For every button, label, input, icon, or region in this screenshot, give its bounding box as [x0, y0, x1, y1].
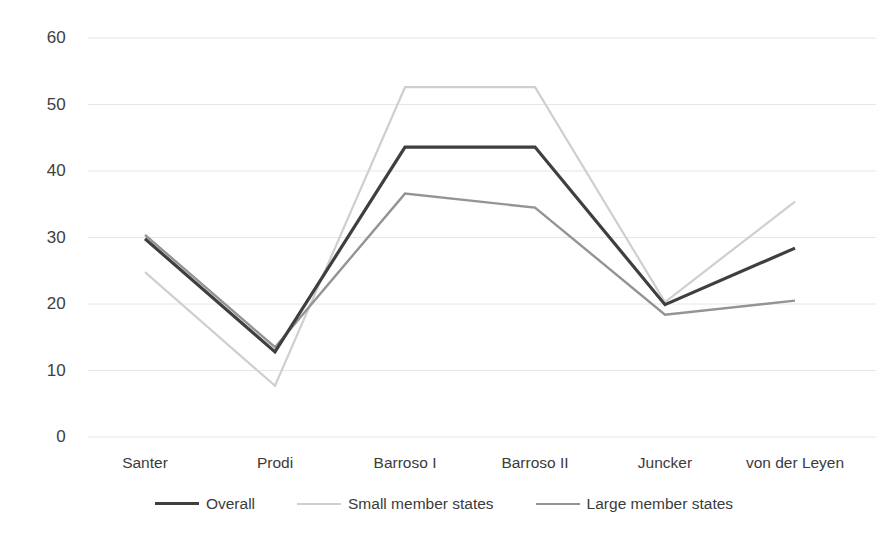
legend-swatch-line-icon: [536, 503, 580, 505]
y-tick-label: 60: [20, 29, 66, 46]
y-tick-label: 30: [20, 229, 66, 246]
series-lines: [145, 87, 795, 386]
x-tick-label-prodi: Prodi: [257, 455, 293, 471]
y-tick-label: 10: [20, 362, 66, 379]
gridlines: [88, 38, 876, 437]
legend-item-small-member-states[interactable]: Small member states: [297, 496, 494, 512]
legend-swatch-line-icon: [155, 502, 199, 505]
series-line-small-member-states: [145, 87, 795, 386]
series-line-overall: [145, 147, 795, 352]
line-chart: 0102030405060 SanterProdiBarroso IBarros…: [0, 0, 888, 546]
chart-legend: OverallSmall member statesLarge member s…: [0, 496, 888, 512]
legend-item-overall[interactable]: Overall: [155, 496, 255, 512]
legend-item-large-member-states[interactable]: Large member states: [536, 496, 733, 512]
y-tick-label: 40: [20, 162, 66, 179]
legend-label: Large member states: [587, 496, 733, 512]
y-tick-label: 0: [20, 428, 66, 445]
legend-label: Overall: [206, 496, 255, 512]
x-tick-label-barroso-i: Barroso I: [374, 455, 437, 471]
x-tick-label-juncker: Juncker: [638, 455, 692, 471]
x-tick-label-von-der-leyen: von der Leyen: [746, 455, 844, 471]
y-tick-label: 20: [20, 295, 66, 312]
legend-swatch-line-icon: [297, 503, 341, 505]
legend-label: Small member states: [348, 496, 494, 512]
y-tick-label: 50: [20, 96, 66, 113]
x-tick-label-barroso-ii: Barroso II: [501, 455, 568, 471]
x-tick-label-santer: Santer: [122, 455, 168, 471]
